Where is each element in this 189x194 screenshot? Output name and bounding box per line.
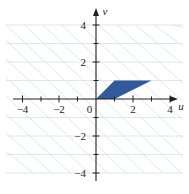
y-axis-label: v (103, 5, 108, 17)
x-tick-label--2: −2 (53, 103, 65, 115)
y-tick-label--4: −4 (74, 167, 86, 179)
coordinate-plane-svg: −4 −2 0 2 4 4 2 −2 −4 u v (0, 0, 189, 194)
grid-diagonal-6 (6, 59, 126, 173)
grid-diagonal-3 (6, 114, 71, 173)
grid-diagonal-16 (154, 25, 183, 46)
y-tick-label--2: −2 (74, 130, 86, 142)
x-axis-label: u (178, 100, 184, 112)
grid-diagonal-2 (6, 133, 52, 173)
x-tick-label--4: −4 (17, 103, 29, 115)
axes (13, 14, 172, 181)
grid-diagonal-15 (136, 25, 184, 65)
grid-diagonal-5 (6, 77, 108, 173)
grid-diagonal-14 (117, 25, 183, 83)
x-tick-label-4: 4 (167, 103, 173, 115)
parallelogram-plot-figure: −4 −2 0 2 4 4 2 −2 −4 u v (0, 0, 189, 194)
x-axis-arrowhead (170, 96, 178, 102)
origin-label: 0 (87, 103, 93, 115)
y-tick-label-4: 4 (81, 19, 87, 31)
y-tick-label-2: 2 (81, 56, 87, 68)
x-tick-label-2: 2 (130, 103, 136, 115)
y-axis-arrowhead (93, 8, 99, 16)
